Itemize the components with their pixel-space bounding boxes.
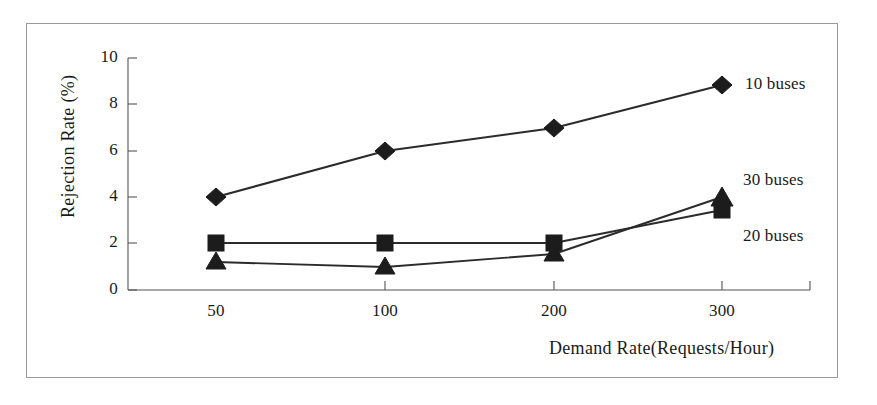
series-line-10-buses bbox=[216, 85, 722, 197]
marker-square-50 bbox=[208, 235, 224, 251]
series-annotation-20-buses: 20 buses bbox=[743, 226, 804, 246]
y-tick-label-10: 10 bbox=[72, 47, 118, 67]
marker-square-100 bbox=[377, 235, 393, 251]
marker-diamond-50 bbox=[206, 188, 226, 206]
x-tick-label-100: 100 bbox=[350, 301, 420, 321]
x-tick-label-50: 50 bbox=[181, 301, 251, 321]
chart-figure: 10 8 6 4 2 0 50 100 200 300 Rejection Ra… bbox=[0, 0, 877, 405]
x-axis-title: Demand Rate(Requests/Hour) bbox=[549, 338, 774, 359]
marker-diamond-100 bbox=[375, 142, 395, 160]
marker-triangle-300 bbox=[711, 187, 733, 206]
marker-diamond-200 bbox=[544, 119, 564, 137]
y-axis-title: Rejection Rate (%) bbox=[58, 75, 79, 218]
x-tick-label-300: 300 bbox=[687, 301, 757, 321]
y-tick-label-0: 0 bbox=[72, 279, 118, 299]
series-line-20-buses bbox=[216, 210, 722, 243]
marker-diamond-300 bbox=[712, 76, 732, 94]
x-tick-label-200: 200 bbox=[519, 301, 589, 321]
y-tick-label-2: 2 bbox=[72, 232, 118, 252]
series-annotation-10-buses: 10 buses bbox=[745, 74, 806, 94]
marker-triangle-50 bbox=[206, 252, 226, 269]
series-annotation-30-buses: 30 buses bbox=[743, 170, 804, 190]
series-line-30-buses bbox=[216, 197, 722, 267]
series-markers-10-buses bbox=[206, 76, 732, 206]
marker-triangle-100 bbox=[375, 257, 395, 274]
